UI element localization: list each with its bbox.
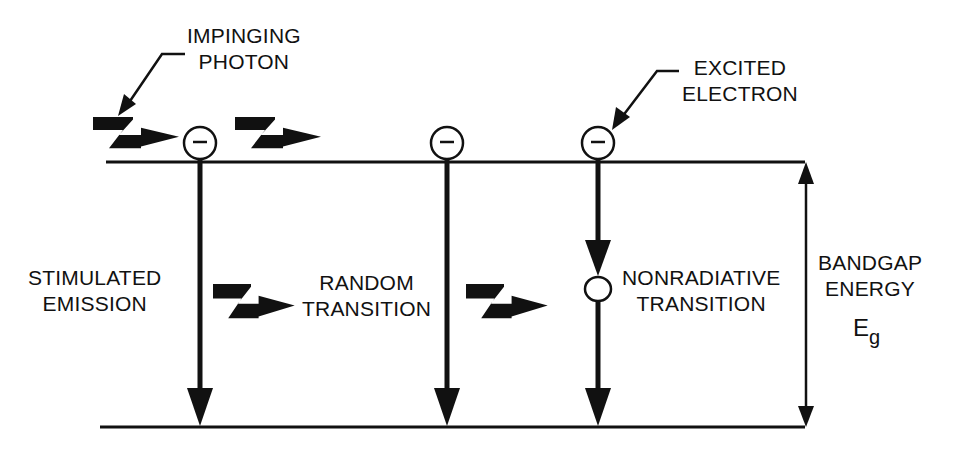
label-line: STIMULATED xyxy=(28,265,161,291)
label-line: IMPINGING xyxy=(187,23,301,49)
impinging-photon-label: IMPINGING PHOTON xyxy=(187,23,301,75)
excited-electron-label: EXCITED ELECTRON xyxy=(682,55,798,107)
label-line: NONRADIATIVE xyxy=(622,265,780,291)
stimulated-emission-arrow xyxy=(187,159,213,426)
label-line: RANDOM xyxy=(302,270,431,296)
label-line: PHOTON xyxy=(187,49,301,75)
label-line: EXCITED xyxy=(682,55,798,81)
bandgap-energy-arrow xyxy=(798,162,814,427)
stimulated-emission-label: STIMULATED EMISSION xyxy=(28,265,161,317)
energy-symbol: E xyxy=(853,314,869,341)
energy-subscript: g xyxy=(869,326,880,348)
excited-electron-pointer xyxy=(622,71,679,117)
label-line: ELECTRON xyxy=(682,81,798,107)
band-diagram xyxy=(0,0,958,458)
label-line: ENERGY xyxy=(818,276,922,302)
nonradiative-transition-label: NONRADIATIVE TRANSITION xyxy=(622,265,780,317)
impinging-photon-icon xyxy=(93,117,179,148)
label-line: TRANSITION xyxy=(302,296,431,322)
nonradiative-transition-arrow xyxy=(585,159,611,426)
label-line: TRANSITION xyxy=(622,291,780,317)
electron-random xyxy=(431,127,463,159)
label-line: EMISSION xyxy=(28,291,161,317)
random-transition-label: RANDOM TRANSITION xyxy=(302,270,431,322)
intermediate-state xyxy=(585,277,611,301)
electron-stimulated xyxy=(184,127,216,159)
photon-emission-icon xyxy=(466,284,548,318)
bandgap-symbol: Eg xyxy=(853,314,880,349)
emitted-photon-icon xyxy=(235,117,321,148)
impinging-photon-pointer xyxy=(128,54,185,104)
bandgap-energy-label: BANDGAP ENERGY xyxy=(818,250,922,302)
electron-excited xyxy=(582,127,614,159)
label-line: BANDGAP xyxy=(818,250,922,276)
photon-emission-icon xyxy=(213,284,295,318)
random-transition-arrow xyxy=(434,159,460,426)
